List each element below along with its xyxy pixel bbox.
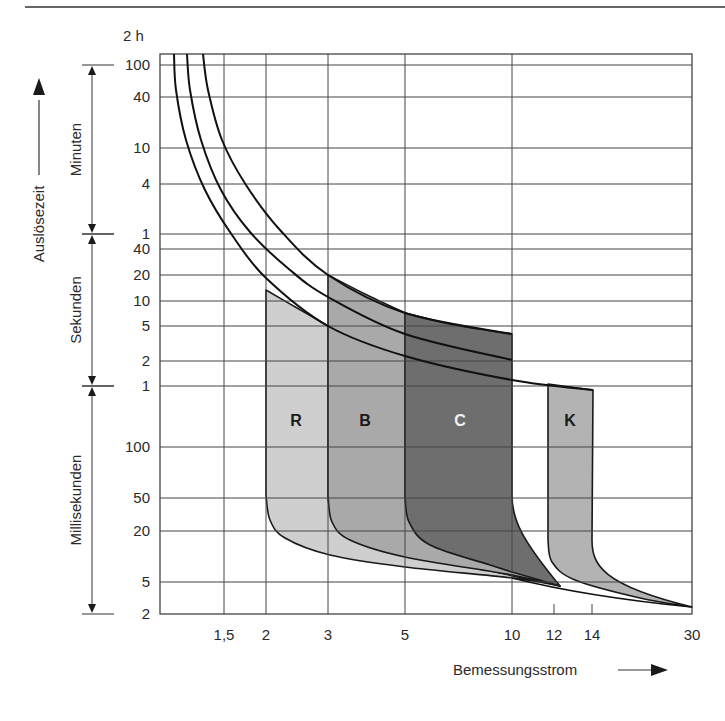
up-arrow-icon (33, 78, 45, 95)
y-tick-label: 20 (133, 522, 150, 539)
tripping-characteristic-chart: RBCK 100401041402010521100502052MinutenS… (0, 0, 725, 721)
x-tick-label: 1,5 (214, 626, 235, 643)
x-tick-label: 5 (401, 626, 409, 643)
y-tick-label: 100 (125, 438, 150, 455)
arrow-up-icon (88, 66, 96, 75)
y-range-label: Millisekunden (67, 455, 84, 546)
y-tick-label: 10 (133, 292, 150, 309)
x-axis-title-text: Bemessungsstrom (453, 661, 577, 678)
arrow-up-icon (88, 387, 96, 396)
x-tick-label: 30 (684, 626, 701, 643)
y-tick-label: 1 (142, 377, 150, 394)
y-tick-label: 100 (125, 56, 150, 73)
x-tick-label: 14 (584, 626, 601, 643)
x-axis-title: Bemessungsstrom (453, 661, 668, 678)
x-axis: 1,523510121430 (214, 626, 701, 643)
region-label-r: R (290, 412, 302, 429)
x-tick-label: 10 (504, 626, 521, 643)
curve-upper (203, 54, 512, 334)
x-tick-label: 3 (324, 626, 332, 643)
x-tick-label: 2 (262, 626, 270, 643)
y-range-label: Minuten (67, 123, 84, 176)
y-top-label: 2 h (123, 27, 144, 44)
y-tick-label: 5 (142, 573, 150, 590)
region-label-b: B (359, 412, 371, 429)
region-label-k: K (564, 412, 576, 429)
y-tick-label: 50 (133, 489, 150, 506)
y-tick-label: 40 (133, 240, 150, 257)
region-label-c: C (454, 412, 466, 429)
arrow-up-icon (88, 235, 96, 244)
y-tick-label: 40 (133, 88, 150, 105)
x-tick-label: 12 (546, 626, 563, 643)
arrow-down-icon (88, 376, 96, 385)
y-tick-label: 10 (133, 139, 150, 156)
y-tick-label: 4 (142, 175, 150, 192)
arrow-down-icon (88, 224, 96, 233)
y-axis-title-text: Auslösezeit (30, 185, 47, 263)
y-tick-label: 2 (142, 605, 150, 622)
y-axis-title: Auslösezeit (30, 78, 47, 262)
right-arrow-icon (651, 664, 668, 676)
y-tick-label: 2 (142, 352, 150, 369)
tripping-regions (266, 275, 692, 607)
y-axis: 100401041402010521100502052MinutenSekund… (67, 56, 150, 622)
arrow-down-icon (88, 604, 96, 613)
y-tick-label: 5 (142, 317, 150, 334)
y-range-label: Sekunden (67, 276, 84, 344)
y-tick-label: 20 (133, 266, 150, 283)
